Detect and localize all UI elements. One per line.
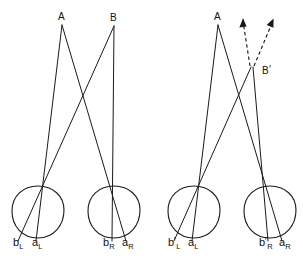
right-eye-outline xyxy=(244,186,296,238)
virtual-ray-right xyxy=(254,26,271,67)
subscript: R xyxy=(285,242,290,251)
image-label-aR-left-panel: aR xyxy=(122,237,134,248)
subscript: R xyxy=(267,242,272,251)
ray-Bprime-to-left-eye xyxy=(174,67,251,241)
ray-A-to-left-eye xyxy=(36,25,62,241)
left-eye-outline xyxy=(168,186,220,238)
ray-Bprime-to-right-eye xyxy=(253,67,268,241)
virtual-ray-left-arrowhead xyxy=(239,18,246,27)
image-label-bLprime-right-panel: b′L xyxy=(168,237,180,248)
point-label-B-left-panel: B xyxy=(110,13,117,23)
subscript: L xyxy=(176,242,180,251)
subscript: L xyxy=(19,242,23,251)
figure-canvas xyxy=(0,0,303,263)
subscript: L xyxy=(194,242,198,251)
point-label-Bprime-right-panel: B′ xyxy=(262,66,271,76)
virtual-ray-right-arrowhead xyxy=(267,19,274,28)
ray-A-to-right-eye xyxy=(62,25,126,241)
subscript: R xyxy=(128,242,133,251)
virtual-ray-left xyxy=(244,25,250,66)
right-panel xyxy=(168,18,296,241)
left-eye-outline xyxy=(12,186,64,238)
optics-figure: A B bL aL bR aR A B′ b′L aL b′R aR xyxy=(0,0,303,263)
image-label-aL-left-panel: aL xyxy=(32,237,42,248)
right-eye-outline xyxy=(88,186,140,238)
point-label-A-right-panel: A xyxy=(214,12,221,22)
image-label-aR-right-panel: aR xyxy=(279,237,291,248)
subscript: L xyxy=(38,242,42,251)
prime-mark: ′ xyxy=(269,64,271,75)
ray-B-to-left-eye xyxy=(18,26,114,241)
left-panel xyxy=(12,25,140,241)
image-label-bR-left-panel: bR xyxy=(103,237,115,248)
image-label-aL-right-panel: aL xyxy=(188,237,198,248)
ray-A-to-left-eye xyxy=(192,25,218,241)
ray-B-to-right-eye xyxy=(112,26,114,241)
image-label-bL-left-panel: bL xyxy=(13,237,23,248)
point-label-A-left-panel: A xyxy=(58,12,65,22)
ray-A-to-right-eye xyxy=(218,25,282,241)
image-label-bRprime-right-panel: b′R xyxy=(259,237,272,248)
subscript: R xyxy=(109,242,114,251)
